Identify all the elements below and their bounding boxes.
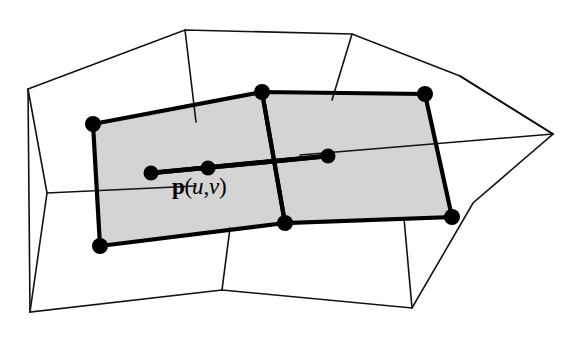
mesh-edge-top-right-corner <box>460 76 553 134</box>
point-label-close-paren: ) <box>219 174 226 199</box>
mesh-edge-bottom-left-vertical <box>222 228 230 290</box>
mesh-edge-left-lower <box>30 193 47 312</box>
mesh-edge-bottom-right-vertical <box>404 218 412 308</box>
parameter-dot-start <box>144 166 159 181</box>
mesh-diagram-svg <box>0 0 576 348</box>
figure-canvas: p(u,v) <box>0 0 576 348</box>
patch-vertex-top-left <box>85 116 101 132</box>
patch-vertex-top-right <box>417 86 433 102</box>
mesh-edge-top-right <box>332 34 352 100</box>
patch-vertex-top-middle <box>254 84 270 100</box>
parameter-dot-end <box>321 149 336 164</box>
point-label-param-u: u <box>192 174 203 199</box>
patch-vertex-bottom-middle <box>277 215 293 231</box>
point-label-param-v: v <box>209 174 219 199</box>
patch-vertex-bottom-right <box>444 209 460 225</box>
point-label-open-paren: ( <box>185 174 192 199</box>
patch-vertex-bottom-left <box>92 238 108 254</box>
point-label: p(u,v) <box>172 175 226 198</box>
point-label-symbol: p <box>172 174 185 199</box>
